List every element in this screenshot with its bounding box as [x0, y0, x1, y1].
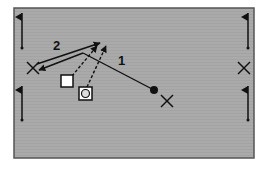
- player-circle-square: [79, 87, 92, 100]
- ball-icon: [150, 86, 158, 94]
- pass-label-2: 2: [53, 38, 60, 53]
- field: [14, 8, 254, 158]
- pass-label-1: 1: [118, 53, 125, 68]
- soccer-drill-diagram: 1 2: [0, 0, 264, 171]
- player-square: [61, 75, 73, 87]
